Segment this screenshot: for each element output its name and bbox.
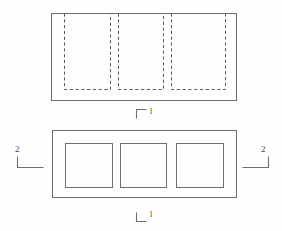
section-marker-2-left [18,157,44,168]
opening-1 [66,144,113,188]
hidden-recess-3 [172,14,226,90]
section-marker-1-bottom [137,213,147,222]
opening-3 [177,144,224,188]
section-line-1-top [137,110,147,119]
section-line-2-left [18,157,44,168]
section-line-2-right [243,157,269,168]
section-label-1-bottom: 1 [149,211,153,219]
section-label-2-right: 2 [261,145,266,154]
technical-drawing-canvas [0,0,282,231]
elevation-view [52,14,237,101]
section-marker-1-top [137,110,147,119]
hidden-recess-2 [119,14,164,90]
drawing-sheet: 1 1 2 2 [0,0,282,231]
section-marker-2-right [243,157,269,168]
section-line-1-bottom [137,213,147,222]
section-label-1-top: 1 [149,108,153,116]
elevation-outline [52,14,237,101]
hidden-recess-1 [65,14,111,90]
opening-2 [121,144,167,188]
section-label-2-left: 2 [15,145,20,154]
plan-view [53,131,237,198]
